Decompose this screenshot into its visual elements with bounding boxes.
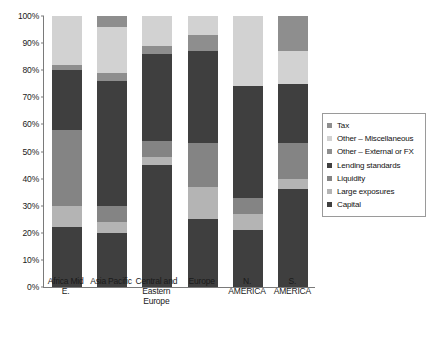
bar-segment [97, 73, 127, 81]
bar-segment [233, 86, 263, 197]
y-tick-label: 90% [23, 38, 44, 48]
legend-swatch-icon [327, 189, 332, 194]
legend-item-label: Lending standards [337, 161, 400, 170]
bar-segment [142, 141, 172, 157]
bar-segment [233, 16, 263, 86]
bar-s.-america [278, 16, 308, 287]
legend-swatch-icon [327, 176, 332, 181]
bar-africa-mid-e. [52, 16, 82, 287]
bar-central-and-eastern-europe [142, 16, 172, 287]
x-axis-label: S. AMERICA [270, 276, 315, 296]
bar-segment [52, 70, 82, 130]
bar-segment [142, 16, 172, 46]
bar-segment [142, 157, 172, 165]
legend-item-label: Tax [337, 121, 349, 130]
bar-segment [188, 35, 218, 51]
bar-n.-america [233, 16, 263, 287]
legend-item[interactable]: Tax [327, 119, 421, 132]
legend-item[interactable]: Large exposures [327, 185, 421, 198]
bar-segment [52, 206, 82, 228]
legend-item-label: Other – Miscellaneous [337, 134, 413, 143]
y-tick-label: 80% [23, 65, 44, 75]
bar-segment [52, 130, 82, 206]
bar-segment [97, 16, 127, 27]
y-tick-label: 40% [23, 174, 44, 184]
bar-segment [278, 189, 308, 287]
x-axis-label: Europe [179, 276, 224, 286]
legend-item[interactable]: Liquidity [327, 172, 421, 185]
bar-segment [97, 222, 127, 233]
x-axis-label: Asia Pacific [88, 276, 133, 286]
bar-segment [97, 206, 127, 222]
bar-segment [188, 143, 218, 186]
legend-swatch-icon [327, 136, 332, 141]
bar-segment [142, 46, 172, 54]
stacked-bar-chart: 0%10%20%30%40%50%60%70%80%90%100% Africa… [0, 0, 432, 339]
bar-segment [278, 179, 308, 190]
y-tick-label: 30% [23, 201, 44, 211]
bar-segment [142, 165, 172, 287]
bar-segment [233, 198, 263, 214]
y-tick-label: 50% [23, 147, 44, 157]
legend-item[interactable]: Other – External or FX [327, 145, 421, 158]
legend-swatch-icon [327, 163, 332, 168]
y-tick-label: 10% [23, 255, 44, 265]
y-tick-label: 70% [23, 92, 44, 102]
chart-legend: TaxOther – MiscellaneousOther – External… [322, 113, 426, 217]
legend-item-label: Liquidity [337, 174, 365, 183]
legend-item-label: Other – External or FX [337, 147, 414, 156]
bar-segment [278, 51, 308, 84]
bar-segment [188, 187, 218, 220]
y-tick-label: 60% [23, 119, 44, 129]
legend-item[interactable]: Capital [327, 198, 421, 211]
x-axis-label: Africa Mid E. [43, 276, 88, 296]
plot-area: 0%10%20%30%40%50%60%70%80%90%100% [43, 16, 315, 288]
bar-segment [52, 65, 82, 70]
bar-europe [188, 16, 218, 287]
bar-segment [278, 143, 308, 178]
bar-segment [97, 81, 127, 206]
x-axis-label: Central and Eastern Europe [134, 276, 179, 306]
legend-swatch-icon [327, 123, 332, 128]
legend-swatch-icon [327, 202, 332, 207]
legend-item[interactable]: Lending standards [327, 159, 421, 172]
bar-segment [188, 51, 218, 143]
bar-segment [188, 16, 218, 35]
legend-item[interactable]: Other – Miscellaneous [327, 132, 421, 145]
legend-item-label: Capital [337, 200, 361, 209]
bar-segment [278, 84, 308, 144]
bar-segment [97, 27, 127, 73]
y-tick-label: 20% [23, 228, 44, 238]
bar-segment [142, 54, 172, 141]
x-axis-label: N. AMERICA [224, 276, 269, 296]
y-tick-label: 0% [27, 282, 44, 292]
bar-segment [233, 214, 263, 230]
legend-swatch-icon [327, 149, 332, 154]
legend-item-label: Large exposures [337, 187, 394, 196]
bar-segment [278, 16, 308, 51]
y-tick-label: 100% [18, 11, 44, 21]
bar-segment [52, 16, 82, 65]
bar-asia-pacific [97, 16, 127, 287]
